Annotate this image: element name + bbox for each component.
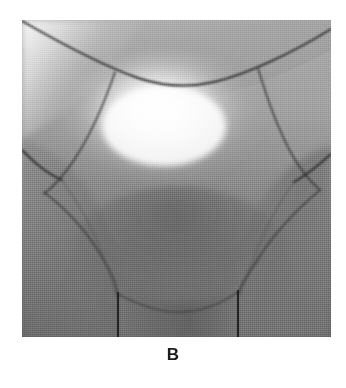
surface-render-svg	[22, 20, 331, 337]
shaded-surface-body	[22, 20, 331, 337]
figure-caption-row: B	[0, 345, 346, 385]
surface-render-panel	[22, 20, 331, 337]
specular-core	[102, 86, 226, 166]
figure-container: B	[0, 0, 346, 388]
figure-caption-label: B	[167, 345, 179, 365]
